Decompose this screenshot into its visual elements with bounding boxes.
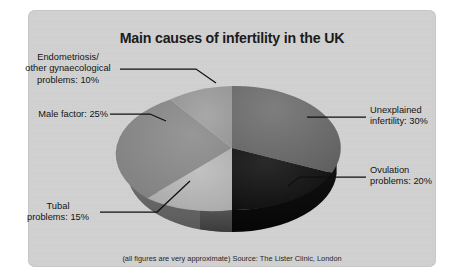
label-male-factor: Male factor: 25% xyxy=(14,109,108,120)
label-tubal: Tubal problems: 15% xyxy=(18,201,98,224)
source-footnote: (all figures are very approximate) Sourc… xyxy=(0,254,464,263)
leader-line-endometriosis xyxy=(120,69,216,83)
label-ovulation: Ovulation problems: 20% xyxy=(370,165,462,188)
label-unexplained: Unexplained infertility: 30% xyxy=(370,105,462,128)
label-endometriosis: Endometriosis/ other gynaecological prob… xyxy=(14,52,122,86)
pie-chart-graphic xyxy=(0,0,464,277)
